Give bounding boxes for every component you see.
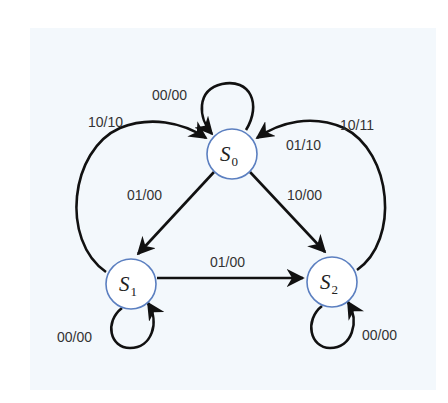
edge-s0-s1 (138, 172, 214, 254)
label-s1-s2: 01/00 (210, 254, 245, 270)
state-s2: S2 (307, 257, 357, 307)
label-s0-s1: 01/00 (127, 187, 162, 203)
state-s0: S0 (207, 129, 257, 179)
state-s1: S1 (106, 259, 156, 309)
label-s1-s1: 00/00 (57, 329, 92, 345)
label-s2-s2: 00/00 (362, 327, 397, 343)
state-diagram: S0 S1 S2 00/00 10/10 10/11 01/10 01/00 1… (0, 0, 448, 403)
label-s2-s0-b: 01/10 (286, 137, 321, 153)
label-s0-s2: 10/00 (287, 187, 322, 203)
edge-s2-s2 (311, 302, 353, 348)
label-s2-s0-a: 10/11 (340, 117, 374, 133)
edge-s0-s0 (202, 83, 253, 134)
label-s1-s0: 10/10 (88, 114, 123, 130)
edge-s0-s2 (250, 172, 325, 252)
label-s0-s0: 00/00 (152, 87, 187, 103)
